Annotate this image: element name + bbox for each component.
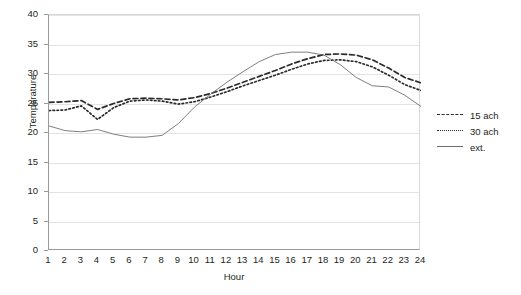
y-tick-label: 20 — [0, 127, 38, 137]
chart-legend: 15 ach 30 ach ext. — [437, 107, 499, 155]
y-tick-label: 30 — [0, 68, 38, 78]
y-tick-label: 10 — [0, 186, 38, 196]
series-line-ext- — [49, 52, 421, 137]
dashed-line-icon — [437, 110, 463, 120]
x-tick-label: 24 — [410, 255, 430, 265]
x-axis-title: Hour — [48, 271, 420, 282]
legend-item-30-ach: 30 ach — [437, 123, 499, 139]
y-tick-label: 15 — [0, 157, 38, 167]
legend-label: 15 ach — [470, 110, 499, 121]
series-layer — [49, 15, 421, 251]
y-tick-label: 5 — [0, 216, 38, 226]
legend-label: ext. — [470, 142, 485, 153]
y-tick-label: 0 — [0, 245, 38, 255]
legend-label: 30 ach — [470, 126, 499, 137]
y-tick-label: 25 — [0, 98, 38, 108]
y-tick-label: 40 — [0, 9, 38, 19]
y-tick-mark — [44, 250, 48, 251]
solid-line-icon — [437, 142, 463, 152]
legend-item-15-ach: 15 ach — [437, 107, 499, 123]
temperature-line-chart: Temperature 0510152025303540 12345678910… — [0, 0, 521, 295]
y-tick-label: 35 — [0, 39, 38, 49]
plot-area — [48, 14, 420, 250]
legend-item-ext: ext. — [437, 139, 499, 155]
dotted-line-icon — [437, 126, 463, 136]
series-line-30-ach — [49, 60, 421, 120]
